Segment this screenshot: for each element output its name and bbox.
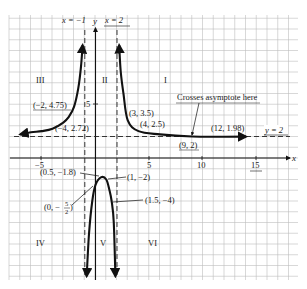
annotation-frac-num: 5: [65, 200, 68, 207]
region-label-III: III: [36, 75, 45, 85]
asymptote-x-minus-1-label: x = −1: [61, 15, 86, 25]
asymptote-y-2-label: y = 2: [264, 125, 284, 135]
curve-branch-middle: [87, 177, 116, 276]
region-label-IV: IV: [36, 238, 46, 248]
annotation-point-3-3.5: (3, 3.5): [129, 108, 154, 118]
tick-label-y5: 5: [86, 99, 90, 109]
leader-0.5-neg1.8: [80, 173, 99, 176]
annotation-point-4-2.5: (4, 2.5): [140, 119, 165, 129]
region-label-I: I: [164, 75, 167, 85]
leader-0-neg5/2: [72, 186, 93, 205]
region-label-II: II: [102, 75, 108, 85]
rational-function-graph: x y x = −1 x = 2 y = 2 −5 5 10 15 5 III …: [0, 0, 307, 289]
annotation-point-1.5-neg4: (1.5, −4): [145, 195, 175, 205]
region-label-VI: VI: [148, 238, 157, 248]
annotation-point-0.5-neg1.8: (0.5, −1.8): [40, 167, 76, 177]
annotation-point-1-neg2: (1, −2): [127, 172, 150, 182]
annotation-crosses-asymptote: Crosses asymptote here: [177, 92, 257, 102]
asymptote-x-2-label: x = 2: [104, 15, 124, 25]
tick-label-15: 15: [251, 160, 260, 170]
tick-label-5: 5: [147, 160, 151, 170]
leader-crosses-asymptote: [192, 103, 199, 135]
annotation-point-neg4-2.72: (−4, 2.72): [55, 123, 89, 133]
x-axis-label: x: [291, 153, 296, 163]
y-axis-label: y: [92, 16, 97, 26]
annotation-point-12-1.98: (12, 1.98): [211, 123, 244, 133]
annotation-frac-close: ): [70, 202, 73, 212]
annotation-point-9-2: (9, 2): [179, 140, 198, 150]
region-label-V: V: [100, 238, 107, 248]
tick-label-10: 10: [197, 160, 206, 170]
annotation-frac-den: 2: [65, 208, 68, 215]
annotation-point-0-neg5/2: (0, −: [44, 202, 60, 212]
annotation-point-neg2-4.75: (−2, 4.75): [33, 100, 67, 110]
